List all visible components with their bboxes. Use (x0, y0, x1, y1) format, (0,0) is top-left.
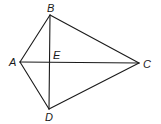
diagonal-ac (20, 62, 139, 63)
label-e: E (53, 49, 61, 61)
segment-cd (49, 63, 139, 109)
diagonal-bd (49, 15, 50, 109)
label-a: A (8, 56, 16, 68)
segment-ab (20, 15, 50, 62)
segment-bc (50, 15, 139, 63)
label-b: B (47, 2, 54, 14)
kite-diagram: A B C D E (0, 0, 161, 124)
diagram-canvas: A B C D E (0, 0, 161, 124)
label-d: D (45, 111, 53, 123)
label-c: C (143, 58, 151, 70)
segment-da (20, 62, 49, 109)
